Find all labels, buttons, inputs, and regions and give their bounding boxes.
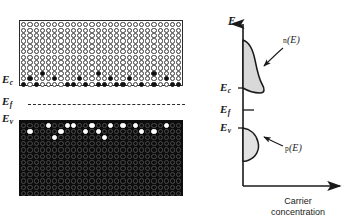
p-function-argument: (E) xyxy=(289,142,302,153)
p-label-leader-line xyxy=(264,137,283,146)
plot-label-conduction-band-edge: Ec xyxy=(220,82,231,93)
band-diagram-figure: Ec Ef Ev xyxy=(0,0,355,223)
plot-ef-symbol: E xyxy=(220,103,227,115)
electron-distribution-label: n(E) xyxy=(283,35,300,45)
caption-line-1: Carrier xyxy=(255,196,341,207)
n-function-argument: (E) xyxy=(287,34,300,45)
plot-label-valence-band-edge: Ev xyxy=(220,122,231,133)
plot-ev-symbol: E xyxy=(220,121,227,133)
plot-label-fermi-level: Ef xyxy=(220,104,230,115)
energy-axis-label: E xyxy=(228,16,236,28)
plot-ef-subscript: f xyxy=(228,108,231,117)
carrier-concentration-chart xyxy=(0,0,355,223)
plot-ec-symbol: E xyxy=(220,81,227,93)
plot-ec-subscript: c xyxy=(228,86,231,95)
n-label-leader-line xyxy=(264,48,283,66)
electron-distribution-curve xyxy=(243,40,264,93)
caption-line-2: concentration xyxy=(255,207,341,218)
plot-ev-subscript: v xyxy=(228,126,231,135)
hole-distribution-label: p(E) xyxy=(285,143,302,153)
carrier-concentration-caption: Carrier concentration xyxy=(255,196,341,219)
hole-distribution-curve xyxy=(243,128,259,161)
